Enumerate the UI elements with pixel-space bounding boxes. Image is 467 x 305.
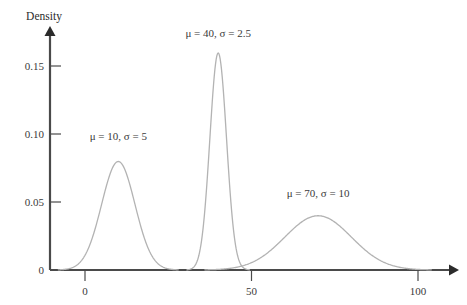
density-curves xyxy=(58,53,431,270)
x-tick-label: 0 xyxy=(82,285,88,297)
y-tick-label: 0.10 xyxy=(25,128,45,140)
y-tick-label: 0.05 xyxy=(25,196,45,208)
curve-parameter-label: μ = 40, σ = 2.5 xyxy=(185,27,251,39)
normal-density-plot: 00.050.100.15 050100 Density μ = 10, σ =… xyxy=(0,0,467,305)
y-axis-arrow-icon xyxy=(45,26,56,36)
density-curve xyxy=(187,53,250,270)
y-tick-label: 0 xyxy=(39,264,45,276)
density-chart: 00.050.100.15 050100 Density μ = 10, σ =… xyxy=(0,0,467,305)
curve-parameter-label: μ = 10, σ = 5 xyxy=(90,130,148,142)
axis-group xyxy=(45,26,460,276)
density-curve xyxy=(58,161,178,269)
curve-parameter-label: μ = 70, σ = 10 xyxy=(287,187,350,199)
x-tick-label: 50 xyxy=(246,285,258,297)
y-axis-ticks: 00.050.100.15 xyxy=(25,60,61,276)
x-axis-ticks: 050100 xyxy=(82,270,427,297)
y-tick-label: 0.15 xyxy=(25,60,45,72)
x-tick-label: 100 xyxy=(410,285,427,297)
y-axis-title: Density xyxy=(26,10,62,23)
curve-annotations: μ = 10, σ = 5μ = 40, σ = 2.5μ = 70, σ = … xyxy=(90,27,350,199)
x-axis-arrow-icon xyxy=(449,265,459,276)
